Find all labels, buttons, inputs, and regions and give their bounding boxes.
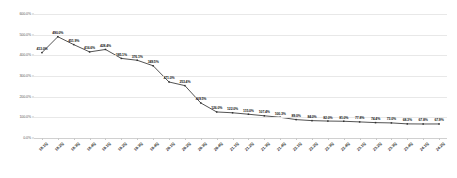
x-axis-tick-label: 23.1Q [355, 141, 366, 152]
y-tick-mark [32, 117, 34, 118]
data-point-label: 67.8% [419, 118, 428, 122]
data-point-label: 115.0% [243, 109, 254, 113]
data-point-marker [216, 111, 218, 113]
x-tick-mark [328, 138, 329, 140]
x-axis-tick-label: 22.3Q [324, 141, 335, 152]
x-tick-mark [264, 138, 265, 140]
x-tick-mark [74, 138, 75, 140]
data-point-label: 413.0% [36, 47, 47, 51]
data-point-label: 77.8% [355, 116, 364, 120]
data-point-label: 376.1% [132, 55, 143, 59]
x-tick-mark [153, 138, 154, 140]
x-tick-mark [423, 138, 424, 140]
x-axis-tick-label: 19.3Q [133, 141, 144, 152]
data-point-label: 89.0% [292, 114, 301, 118]
y-axis-tick-label: 100.0% [19, 115, 31, 119]
y-axis-tick-label: 300.0% [19, 74, 31, 78]
y-axis-tick-label: 600.0% [19, 12, 31, 16]
x-axis-tick-label: 18.3Q [69, 141, 80, 152]
x-tick-mark [121, 138, 122, 140]
x-axis-tick-label: 20.3Q [196, 141, 207, 152]
y-axis-tick-label: 500.0% [19, 33, 31, 37]
data-point-marker [407, 123, 409, 125]
x-axis-tick-label: 24.1Q [419, 141, 430, 152]
x-tick-mark [407, 138, 408, 140]
data-point-marker [311, 120, 313, 122]
x-tick-mark [105, 138, 106, 140]
x-axis-tick-label: 20.4Q [212, 141, 223, 152]
x-tick-mark [296, 138, 297, 140]
data-point-marker [327, 120, 329, 122]
x-axis-tick-label: 18.2Q [53, 141, 64, 152]
data-point-label: 67.9% [434, 118, 443, 122]
x-axis-tick-label: 18.4Q [85, 141, 96, 152]
data-point-label: 126.0% [211, 106, 222, 110]
x-tick-mark [312, 138, 313, 140]
x-tick-mark [344, 138, 345, 140]
data-point-label: 122.0% [227, 107, 238, 111]
x-tick-mark [137, 138, 138, 140]
gridline [34, 97, 447, 98]
data-point-label: 416.6% [84, 46, 95, 50]
x-tick-mark [360, 138, 361, 140]
x-axis-tick-label: 21.2Q [244, 141, 255, 152]
x-tick-mark [233, 138, 234, 140]
data-point-marker [105, 49, 107, 51]
data-point-label: 169.5% [195, 97, 206, 101]
x-tick-mark [391, 138, 392, 140]
y-axis-tick-label: 400.0% [19, 53, 31, 57]
data-point-marker [264, 115, 266, 117]
x-axis-tick-label: 21.1Q [228, 141, 239, 152]
y-tick-mark [32, 55, 34, 56]
data-point-label: 271.0% [164, 76, 175, 80]
data-point-marker [89, 51, 91, 53]
data-point-label: 428.4% [100, 44, 111, 48]
x-tick-mark [42, 138, 43, 140]
data-point-marker [232, 112, 234, 114]
data-point-label: 490.0% [52, 31, 63, 35]
gridline [34, 55, 447, 56]
gridline [34, 35, 447, 36]
data-point-marker [121, 58, 123, 60]
x-axis-tick-label: 21.4Q [276, 141, 287, 152]
x-tick-mark [58, 138, 59, 140]
x-axis-tick-label: 24.2Q [435, 141, 446, 152]
x-axis-tick-label: 23.4Q [403, 141, 414, 152]
data-point-label: 68.3% [403, 118, 412, 122]
x-axis-tick-label: 20.1Q [165, 141, 176, 152]
data-point-marker [73, 44, 75, 46]
x-axis-tick-label: 19.4Q [149, 141, 160, 152]
x-axis-tick-label: 22.4Q [339, 141, 350, 152]
data-point-marker [57, 36, 59, 38]
series-line [42, 37, 439, 124]
x-axis-tick-label: 22.1Q [292, 141, 303, 152]
plot-area: 600.0%500.0%400.0%300.0%200.0%100.0%0.0%… [34, 14, 447, 138]
x-tick-mark [248, 138, 249, 140]
x-axis-tick-label: 21.3Q [260, 141, 271, 152]
gridline [34, 14, 447, 15]
gridline [34, 76, 447, 77]
data-point-marker [422, 123, 424, 125]
x-tick-mark [217, 138, 218, 140]
data-point-label: 107.4% [259, 110, 270, 114]
data-point-label: 100.3% [275, 112, 286, 116]
x-axis-tick-label: 23.3Q [387, 141, 398, 152]
data-point-label: 385.1% [116, 53, 127, 57]
x-axis-tick-label: 19.2Q [117, 141, 128, 152]
x-axis-tick-label: 18.1Q [38, 141, 49, 152]
x-tick-mark [439, 138, 440, 140]
data-point-marker [438, 123, 440, 125]
data-point-marker [359, 121, 361, 123]
data-point-label: 84.0% [307, 115, 316, 119]
y-tick-mark [32, 34, 34, 35]
data-point-marker [184, 85, 186, 87]
data-point-label: 73.0% [387, 117, 396, 121]
gridline [34, 117, 447, 118]
x-tick-mark [90, 138, 91, 140]
x-axis-tick-label: 19.1Q [101, 141, 112, 152]
data-point-marker [41, 52, 43, 54]
data-point-marker [343, 121, 345, 123]
data-point-label: 82.0% [323, 116, 332, 120]
x-axis-tick-label: 23.2Q [371, 141, 382, 152]
data-point-label: 253.4% [179, 80, 190, 84]
